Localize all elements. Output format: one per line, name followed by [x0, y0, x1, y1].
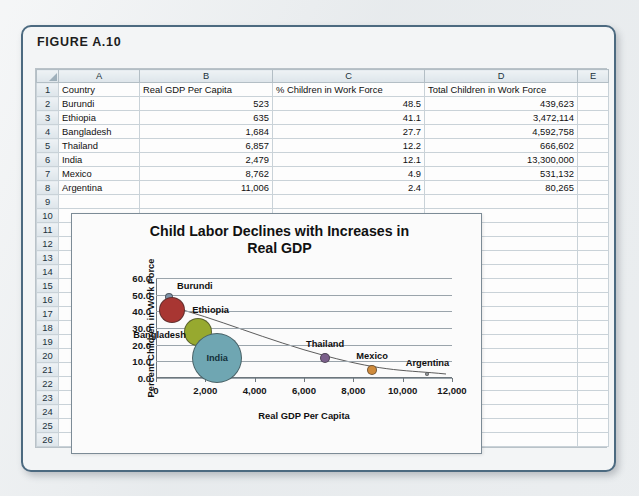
row-header-16[interactable]: 16	[37, 293, 59, 307]
cell-a7[interactable]: Mexico	[59, 167, 140, 181]
row-header-1[interactable]: 1	[37, 83, 59, 97]
row-header-5[interactable]: 5	[37, 139, 59, 153]
cell-c2[interactable]: 48.5	[273, 97, 425, 111]
row-header-9[interactable]: 9	[37, 195, 59, 209]
row-header-13[interactable]: 13	[37, 251, 59, 265]
cell-e6[interactable]	[578, 153, 609, 167]
row-header-3[interactable]: 3	[37, 111, 59, 125]
bubble-thailand[interactable]	[320, 353, 330, 363]
cell-e21[interactable]	[578, 363, 609, 377]
bubble-india[interactable]: India	[192, 333, 242, 383]
row-header-18[interactable]: 18	[37, 321, 59, 335]
row-header-23[interactable]: 23	[37, 391, 59, 405]
row-header-7[interactable]: 7	[37, 167, 59, 181]
cell-a4[interactable]: Bangladesh	[59, 125, 140, 139]
cell-e24[interactable]	[578, 405, 609, 419]
cell-b4[interactable]: 1,684	[140, 125, 273, 139]
row-header-12[interactable]: 12	[37, 237, 59, 251]
cell-b3[interactable]: 635	[140, 111, 273, 125]
cell-e12[interactable]	[578, 237, 609, 251]
cell-c4[interactable]: 27.7	[273, 125, 425, 139]
table-row[interactable]: 9	[37, 195, 609, 209]
table-row[interactable]: 7Mexico8,7624.9531,132	[37, 167, 609, 181]
row-header-22[interactable]: 22	[37, 377, 59, 391]
cell-e11[interactable]	[578, 223, 609, 237]
cell-d6[interactable]: 13,300,000	[425, 153, 578, 167]
cell-b1[interactable]: Real GDP Per Capita	[140, 83, 273, 97]
table-row[interactable]: 6India2,47912.113,300,000	[37, 153, 609, 167]
cell-e23[interactable]	[578, 391, 609, 405]
row-header-25[interactable]: 25	[37, 419, 59, 433]
cell-e25[interactable]	[578, 419, 609, 433]
row-header-24[interactable]: 24	[37, 405, 59, 419]
cell-e7[interactable]	[578, 167, 609, 181]
cell-d7[interactable]: 531,132	[425, 167, 578, 181]
row-header-8[interactable]: 8	[37, 181, 59, 195]
cell-e1[interactable]	[578, 83, 609, 97]
table-row[interactable]: 8Argentina11,0062.480,265	[37, 181, 609, 195]
cell-a9[interactable]	[59, 195, 140, 209]
row-header-4[interactable]: 4	[37, 125, 59, 139]
cell-e17[interactable]	[578, 307, 609, 321]
row-header-21[interactable]: 21	[37, 363, 59, 377]
table-row[interactable]: 5Thailand6,85712.2666,602	[37, 139, 609, 153]
row-header-19[interactable]: 19	[37, 335, 59, 349]
cell-c3[interactable]: 41.1	[273, 111, 425, 125]
cell-a3[interactable]: Ethiopia	[59, 111, 140, 125]
row-header-14[interactable]: 14	[37, 265, 59, 279]
cell-a8[interactable]: Argentina	[59, 181, 140, 195]
row-header-20[interactable]: 20	[37, 349, 59, 363]
bubble-mexico[interactable]	[367, 365, 377, 375]
cell-d1[interactable]: Total Children in Work Force	[425, 83, 578, 97]
cell-d2[interactable]: 439,623	[425, 97, 578, 111]
cell-e18[interactable]	[578, 321, 609, 335]
cell-c7[interactable]: 4.9	[273, 167, 425, 181]
cell-e15[interactable]	[578, 279, 609, 293]
row-header-2[interactable]: 2	[37, 97, 59, 111]
row-header-11[interactable]: 11	[37, 223, 59, 237]
cell-b7[interactable]: 8,762	[140, 167, 273, 181]
cell-e9[interactable]	[578, 195, 609, 209]
cell-e4[interactable]	[578, 125, 609, 139]
cell-b9[interactable]	[140, 195, 273, 209]
column-header-e[interactable]: E	[578, 70, 609, 83]
cell-e3[interactable]	[578, 111, 609, 125]
cell-d3[interactable]: 3,472,114	[425, 111, 578, 125]
cell-b5[interactable]: 6,857	[140, 139, 273, 153]
cell-b8[interactable]: 11,006	[140, 181, 273, 195]
row-header-6[interactable]: 6	[37, 153, 59, 167]
cell-e19[interactable]	[578, 335, 609, 349]
bubble-argentina[interactable]	[425, 372, 429, 376]
row-header-15[interactable]: 15	[37, 279, 59, 293]
cell-e26[interactable]	[578, 433, 609, 447]
cell-e20[interactable]	[578, 349, 609, 363]
cell-d8[interactable]: 80,265	[425, 181, 578, 195]
cell-b2[interactable]: 523	[140, 97, 273, 111]
cell-c8[interactable]: 2.4	[273, 181, 425, 195]
row-header-10[interactable]: 10	[37, 209, 59, 223]
bubble-ethiopia[interactable]	[159, 297, 185, 323]
cell-b6[interactable]: 2,479	[140, 153, 273, 167]
cell-a6[interactable]: India	[59, 153, 140, 167]
cell-c6[interactable]: 12.1	[273, 153, 425, 167]
cell-c1[interactable]: % Children in Work Force	[273, 83, 425, 97]
table-row[interactable]: 2Burundi52348.5439,623	[37, 97, 609, 111]
table-row[interactable]: 3Ethiopia63541.13,472,114	[37, 111, 609, 125]
bubble-chart[interactable]: Child Labor Declines with Increases in R…	[71, 213, 482, 454]
cell-a2[interactable]: Burundi	[59, 97, 140, 111]
cell-e10[interactable]	[578, 209, 609, 223]
cell-c5[interactable]: 12.2	[273, 139, 425, 153]
cell-d4[interactable]: 4,592,758	[425, 125, 578, 139]
row-header-17[interactable]: 17	[37, 307, 59, 321]
column-header-a[interactable]: A	[59, 70, 140, 83]
column-header-c[interactable]: C	[273, 70, 425, 83]
table-row[interactable]: 1CountryReal GDP Per Capita% Children in…	[37, 83, 609, 97]
cell-e14[interactable]	[578, 265, 609, 279]
cell-e16[interactable]	[578, 293, 609, 307]
cell-a1[interactable]: Country	[59, 83, 140, 97]
column-header-d[interactable]: D	[425, 70, 578, 83]
cell-e5[interactable]	[578, 139, 609, 153]
cell-e8[interactable]	[578, 181, 609, 195]
table-row[interactable]: 4Bangladesh1,68427.74,592,758	[37, 125, 609, 139]
cell-e13[interactable]	[578, 251, 609, 265]
